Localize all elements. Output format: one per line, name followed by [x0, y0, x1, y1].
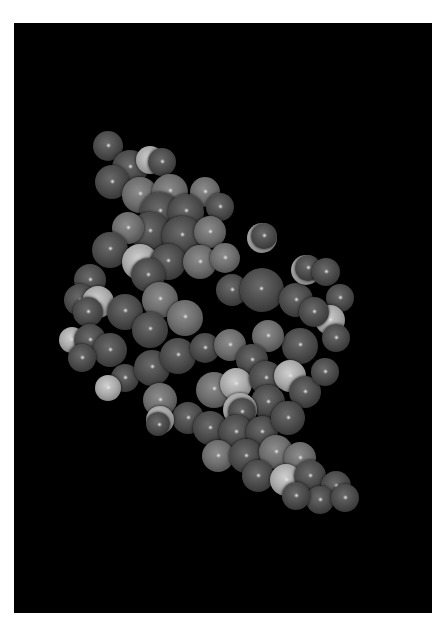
atom-sphere-dark — [306, 486, 334, 514]
molecule-viewport[interactable] — [14, 23, 432, 613]
atom-sphere-dark — [312, 258, 340, 286]
atom-sphere-dark — [271, 401, 305, 435]
atom-sphere-dark — [93, 333, 127, 367]
atom-sphere-dark — [331, 484, 359, 512]
atom-sphere-dark — [299, 297, 329, 327]
atom-sphere-dark — [240, 268, 284, 312]
atom-sphere-dark — [242, 460, 274, 492]
atom-sphere-dark — [322, 324, 350, 352]
atom-sphere-dark — [73, 297, 103, 327]
atom-sphere-dark — [68, 344, 96, 372]
atom-sphere-dark — [311, 358, 339, 386]
space-filling-molecule — [14, 23, 432, 613]
atom-sphere-mid — [210, 243, 240, 273]
atom-sphere-mid — [167, 300, 203, 336]
atom-sphere-dark — [282, 482, 310, 510]
atom-sphere-dark — [146, 412, 170, 436]
atom-sphere-dark — [282, 328, 318, 364]
atom-sphere-dark — [148, 148, 176, 176]
atom-sphere-dark — [251, 223, 277, 249]
atom-sphere-dark — [132, 312, 168, 348]
atom-sphere-light — [95, 375, 121, 401]
